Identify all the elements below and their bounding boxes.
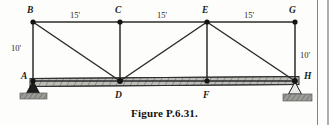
node-label-C: C	[115, 6, 121, 16]
node-label-D: D	[115, 91, 122, 101]
node-label-G: G	[289, 6, 296, 16]
dimension-height-A-B: 10'	[11, 44, 21, 53]
node-label-A: A	[21, 72, 27, 82]
node-label-B: B	[27, 6, 33, 16]
figure-container: B C E G A D F H 15' 15' 15' 10' 10' Figu…	[0, 0, 329, 125]
joint-F	[204, 78, 209, 83]
dimension-span-C-E: 15'	[157, 11, 167, 20]
node-label-E: E	[202, 6, 208, 16]
joint-G	[292, 19, 297, 24]
page-edge-line-outer	[327, 0, 329, 125]
member-diagonal-D-E	[120, 22, 207, 81]
member-diagonal-E-H	[207, 22, 295, 81]
dimension-height-G-H: 10'	[300, 51, 310, 60]
joint-A	[30, 78, 35, 83]
node-label-F: F	[203, 91, 209, 101]
joint-C	[117, 19, 122, 24]
page-edge-line	[317, 0, 318, 125]
joint-D	[117, 78, 123, 84]
joint-E	[204, 19, 209, 24]
dimension-span-B-C: 15'	[70, 11, 80, 20]
joint-B	[30, 19, 35, 24]
node-label-H: H	[304, 72, 311, 82]
joint-H	[292, 78, 298, 84]
figure-caption: Figure P.6.31.	[0, 107, 329, 119]
diagonal-members	[33, 22, 295, 81]
dimension-span-E-G: 15'	[244, 11, 254, 20]
member-diagonal-B-D	[33, 22, 120, 81]
